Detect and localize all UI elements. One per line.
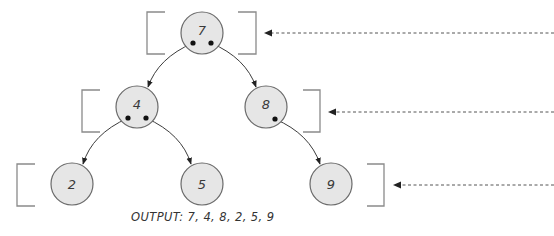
edge-8-to-9	[275, 119, 320, 164]
tree-node-4: 4	[116, 86, 158, 128]
level-1-left-bracket	[82, 90, 100, 132]
level-2-left-bracket	[17, 164, 35, 206]
level-1-pointer-arrow	[328, 109, 554, 116]
arrowhead-icon	[264, 30, 272, 37]
tree-node-2: 2	[51, 163, 93, 205]
tree-node-9: 9	[310, 163, 352, 205]
output-label: OUTPUT:	[131, 210, 184, 224]
edge-4-to-2	[83, 118, 128, 164]
level-0-left-bracket	[147, 12, 165, 54]
node-label: 2	[68, 177, 76, 192]
right-pointer-dot-icon	[208, 40, 213, 45]
node-label: 7	[198, 23, 207, 38]
tree-node-7: 7	[181, 12, 223, 54]
edge-7-to-8	[211, 43, 256, 87]
level-2-right-bracket	[367, 164, 384, 206]
left-pointer-dot-icon	[125, 115, 130, 120]
tree-node-5: 5	[181, 163, 223, 205]
level-0-pointer-arrow	[264, 30, 554, 37]
level-2-pointer-arrow	[393, 182, 554, 189]
arrowhead-icon	[393, 182, 401, 189]
node-label: 5	[198, 177, 206, 192]
node-label: 8	[262, 97, 270, 112]
level-0-right-bracket	[238, 12, 256, 54]
traversal-output-text: OUTPUT: 7, 4, 8, 2, 5, 9	[131, 210, 274, 224]
edge-4-to-5	[146, 118, 191, 164]
level-1-right-bracket	[303, 90, 320, 132]
right-pointer-dot-icon	[272, 116, 277, 121]
binary-tree-traversal-diagram: 7 4 8 2 5 9 OUTPUT: 7, 4, 8, 2, 5, 9	[0, 0, 554, 236]
node-label: 9	[327, 177, 335, 192]
output-sequence: 7, 4, 8, 2, 5, 9	[188, 210, 275, 224]
right-pointer-dot-icon	[143, 115, 148, 120]
arrowhead-icon	[328, 109, 336, 116]
edge-7-to-4	[148, 43, 193, 87]
node-label: 4	[133, 97, 141, 112]
left-pointer-dot-icon	[190, 40, 195, 45]
tree-node-8: 8	[245, 86, 287, 128]
